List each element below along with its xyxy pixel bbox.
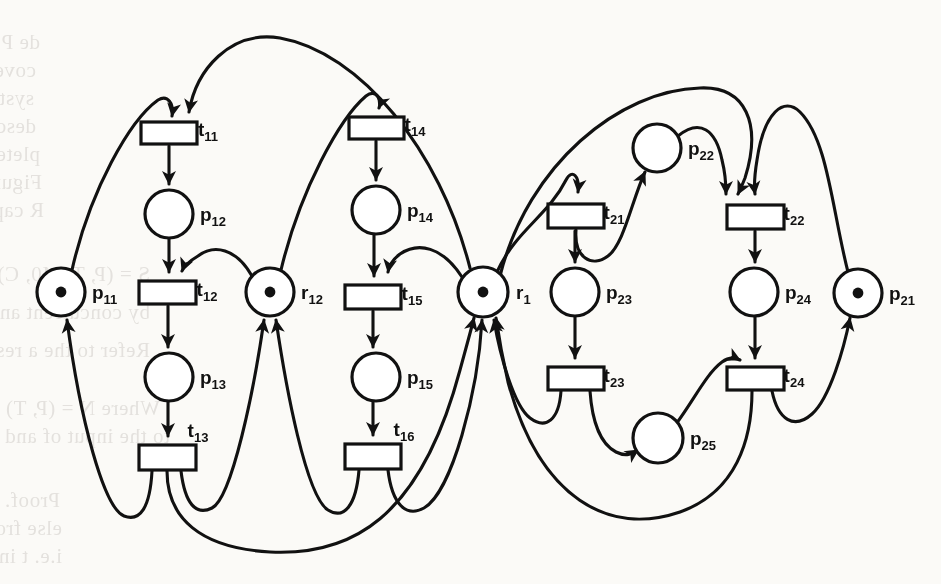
place-circle	[633, 124, 681, 172]
petri-net-canvas: p11p12p13r12p14p15r1p22p23p24p25p21 t11t…	[0, 0, 941, 584]
transition-bar	[345, 285, 401, 309]
transition-label: t24	[784, 365, 806, 390]
arc-t23-p25	[590, 391, 638, 455]
transition-bar	[141, 122, 197, 144]
place-r1[interactable]: r1	[458, 267, 531, 317]
place-p14[interactable]: p14	[352, 186, 434, 234]
transition-t16[interactable]: t16	[345, 419, 414, 469]
place-label: p21	[889, 283, 915, 308]
transition-t22[interactable]: t22	[727, 203, 804, 229]
transition-t14[interactable]: t14	[349, 114, 426, 139]
place-label: p13	[200, 367, 226, 392]
place-p22[interactable]: p22	[633, 124, 714, 172]
token-dot	[56, 287, 67, 298]
transition-t21[interactable]: t21	[548, 202, 624, 228]
place-p13[interactable]: p13	[145, 353, 226, 401]
place-label: p15	[407, 367, 433, 392]
arc-p21-t22	[754, 106, 848, 272]
transition-bar	[548, 367, 604, 390]
transition-label: t21	[604, 202, 625, 227]
place-label: p23	[606, 282, 632, 307]
transition-bar	[548, 204, 604, 228]
place-p21[interactable]: p21	[834, 269, 915, 317]
place-label: p11	[92, 282, 117, 307]
transition-label: t12	[197, 279, 218, 304]
transition-bar	[139, 281, 196, 304]
place-circle	[352, 353, 400, 401]
arc-t16-r12	[276, 320, 359, 513]
place-circle	[352, 186, 400, 234]
arc-r1-t11	[189, 37, 470, 268]
place-r12[interactable]: r12	[246, 268, 323, 316]
transition-label: t16	[394, 419, 415, 444]
place-circle	[551, 268, 599, 316]
place-label: r1	[516, 282, 531, 307]
transition-t13[interactable]: t13	[139, 420, 208, 470]
place-p23[interactable]: p23	[551, 268, 632, 316]
transition-bar	[727, 205, 784, 229]
arc-r1-t15	[388, 248, 462, 277]
place-p24[interactable]: p24	[730, 268, 812, 316]
transition-label: t15	[402, 283, 423, 308]
transition-t12[interactable]: t12	[139, 279, 217, 304]
place-label: p14	[407, 200, 434, 225]
place-p15[interactable]: p15	[352, 353, 433, 401]
arc-r1-t22	[500, 88, 752, 276]
place-circle	[145, 190, 193, 238]
transition-bar	[727, 367, 784, 390]
place-circle	[730, 268, 778, 316]
place-p12[interactable]: p12	[145, 190, 226, 238]
arc-t13-r12	[181, 320, 264, 510]
transition-label: t22	[784, 203, 805, 228]
place-label: p24	[785, 282, 812, 307]
transition-bar	[345, 444, 401, 469]
transition-label: t13	[188, 420, 209, 445]
transition-t24[interactable]: t24	[727, 365, 805, 390]
transition-t15[interactable]: t15	[345, 283, 422, 309]
transition-label: t11	[198, 119, 218, 144]
transition-bar	[349, 117, 404, 139]
transition-label: t23	[604, 365, 625, 390]
place-circle	[145, 353, 193, 401]
place-p25[interactable]: p25	[633, 413, 716, 463]
transition-t23[interactable]: t23	[548, 365, 624, 390]
place-label: p25	[690, 428, 716, 453]
place-circle	[633, 413, 683, 463]
place-label: r12	[301, 282, 323, 307]
petri-net-figure: de Peripheral in an integrated an introd…	[0, 0, 941, 584]
place-label: p12	[200, 204, 226, 229]
token-dot	[478, 287, 489, 298]
arc-r12-t12	[182, 250, 252, 276]
token-dot	[853, 288, 864, 299]
transition-bar	[139, 445, 196, 470]
transition-label: t14	[405, 114, 427, 139]
place-p11[interactable]: p11	[37, 268, 117, 316]
place-label: p22	[688, 138, 714, 163]
transition-t11[interactable]: t11	[141, 119, 218, 144]
token-dot	[265, 287, 276, 298]
arc-t24-r1	[496, 318, 752, 519]
arc-t13-r1	[167, 318, 474, 552]
arc-t13-p11	[67, 320, 152, 517]
arc-t16-r1	[388, 320, 482, 511]
